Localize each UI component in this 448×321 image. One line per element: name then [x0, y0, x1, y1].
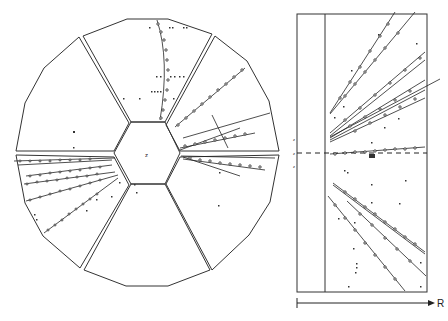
hits-top [157, 23, 169, 119]
sector-upper-left [16, 37, 129, 151]
side-tracks-lower [328, 183, 426, 291]
side-noise-hits [334, 34, 422, 288]
sector-upper-right [166, 36, 279, 151]
side-track-center [330, 147, 425, 158]
side-hits-lower [334, 191, 416, 280]
r-axis-label: R [437, 298, 444, 309]
z-mark-upper: z [293, 137, 295, 142]
sector-bottom [84, 184, 210, 286]
tracks-lower-right [181, 156, 275, 207]
tracks-upper-right [175, 68, 270, 150]
side-hits-upper [339, 23, 421, 132]
track-top-curved [157, 20, 164, 120]
side-tracks-upper [330, 12, 440, 142]
z-mark-center: z [293, 151, 295, 156]
side-view-panel: z z z [293, 12, 444, 309]
detector-end-view: z [14, 19, 279, 286]
z-mark-lower: z [293, 164, 295, 169]
sector-top [83, 19, 212, 122]
sector-lower-right [166, 155, 279, 270]
r-axis: R [297, 298, 444, 309]
center-label: z [145, 152, 148, 158]
event-display-figure: z [0, 0, 448, 321]
noise-hits-top [73, 27, 188, 149]
tracks-left [14, 158, 138, 233]
